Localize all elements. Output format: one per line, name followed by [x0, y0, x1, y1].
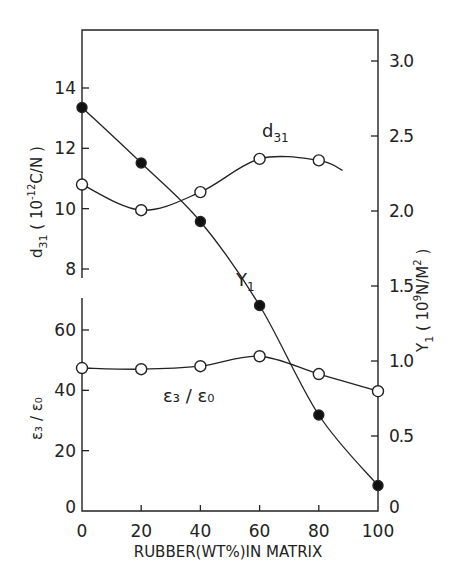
eps-axis-tick-label: 20 [54, 441, 76, 461]
open-circle-marker [313, 369, 324, 380]
filled-circle-marker [255, 301, 265, 311]
open-circle-marker [254, 153, 265, 164]
y1-series-label: Y1 [235, 269, 255, 294]
open-circle-marker [195, 361, 206, 372]
plot-frame [82, 30, 378, 511]
open-circle-marker [254, 351, 265, 362]
curve-30 [82, 356, 378, 391]
open-circle-marker [373, 386, 384, 397]
d31-axis-tick-label: 14 [54, 78, 76, 98]
d31-axis-tick-label: 8 [65, 259, 76, 279]
y1-axis-tick-label: 3.0 [389, 51, 413, 71]
eps-axis-tick-label: 40 [54, 380, 76, 400]
open-circle-marker [136, 205, 147, 216]
filled-circle-marker [77, 103, 87, 113]
x-tick-label: 0 [77, 521, 88, 541]
y1-axis-title: Y1 ( 109N/M2 ) [412, 249, 436, 353]
open-circle-marker [77, 179, 88, 190]
x-tick-label: 40 [190, 521, 212, 541]
chart: 0204060801008101214020406000.51.01.52.02… [0, 0, 456, 578]
curve-d31 [82, 157, 342, 211]
y1-axis-tick-label: 0 [389, 497, 399, 517]
y1-axis-tick-label: 1.0 [389, 351, 413, 371]
d31-axis-tick-label: 10 [54, 199, 76, 219]
open-circle-marker [195, 187, 206, 198]
x-tick-label: 60 [249, 521, 271, 541]
filled-circle-marker [373, 481, 383, 491]
series-curves [82, 108, 378, 486]
eps-axis-title: ε₃ / ε₀ [28, 397, 46, 440]
d31-series-label: d31 [262, 120, 289, 145]
curve-y1 [82, 108, 378, 486]
y1-axis-tick-label: 2.5 [389, 126, 413, 146]
filled-circle-marker [195, 217, 205, 227]
d31-axis-tick-label: 12 [54, 138, 76, 158]
eps-series-label: ε₃ / ε₀ [163, 385, 214, 406]
eps-axis-tick-label: 60 [54, 320, 76, 340]
axis-ticks [82, 61, 378, 511]
open-circle-marker [136, 364, 147, 375]
axis-tick-labels: 0204060801008101214020406000.51.01.52.02… [54, 51, 413, 541]
x-tick-label: 100 [362, 521, 394, 541]
series-markers [77, 103, 384, 491]
filled-circle-marker [314, 410, 324, 420]
eps-axis-tick-label: 0 [65, 497, 76, 517]
y1-axis-tick-label: 1.5 [389, 276, 413, 296]
x-axis-title: RUBBER(WT%)IN MATRIX [134, 543, 323, 561]
x-tick-label: 20 [130, 521, 152, 541]
open-circle-marker [77, 363, 88, 374]
open-circle-marker [313, 155, 324, 166]
axis-frame [82, 30, 378, 511]
filled-circle-marker [136, 158, 146, 168]
y1-axis-tick-label: 2.0 [389, 201, 413, 221]
x-tick-label: 80 [308, 521, 330, 541]
d31-axis-title: d31 ( 10-12C/N ) [26, 146, 50, 258]
y1-axis-tick-label: 0.5 [389, 426, 413, 446]
